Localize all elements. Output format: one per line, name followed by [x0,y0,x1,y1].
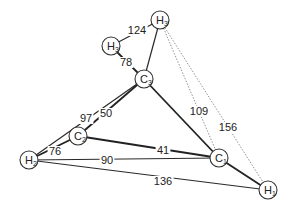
distance-label: 76 [49,145,61,157]
distance-labels-layer: 781245097109156764190136 [48,24,239,187]
atom-H3p: H3' [151,11,169,29]
diagram-svg: 781245097109156764190136 H3'H3C3C2H2C1H1 [0,0,292,212]
bond-H2-H1 [29,160,268,190]
distance-label: 109 [190,105,208,117]
distance-label: 90 [101,154,113,166]
bond-C2-C1 [78,136,219,158]
distance-label: 156 [219,121,237,133]
distance-label: 97 [80,112,92,124]
molecular-distance-diagram: 781245097109156764190136 H3'H3C3C2H2C1H1 [0,0,292,212]
distance-label: 41 [157,144,169,156]
edges-layer [29,20,268,190]
bond-C3-C1 [144,79,219,158]
atom-C3: C3 [135,70,153,88]
atom-C2: C2 [69,127,87,145]
distance-label: 50 [100,107,112,119]
atom-H3: H3 [102,37,120,55]
distance-label: 136 [154,175,172,187]
distance-label: 78 [120,56,132,68]
distance-label: 124 [128,24,146,36]
atom-H1: H1 [259,181,277,199]
atom-H2: H2 [20,151,38,169]
bond-H3p-C1 [160,20,219,158]
atom-C1: C1 [210,149,228,167]
bond-H2-C1 [29,158,219,160]
